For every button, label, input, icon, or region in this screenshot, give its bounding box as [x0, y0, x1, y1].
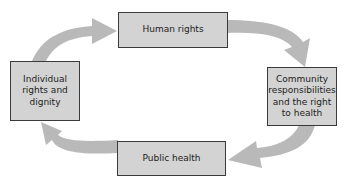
- node-individual-rights: Individual rights and dignity: [10, 61, 80, 121]
- arrow-individual-to-human-rights: [32, 18, 117, 61]
- node-label-line: Individual: [22, 74, 68, 86]
- arrow-public-health-to-individual: [41, 122, 118, 154]
- arrow-community-to-public-health: [228, 125, 315, 168]
- node-label-line: responsibilities: [268, 85, 335, 97]
- node-label-line: and the right: [268, 97, 335, 109]
- node-human-rights: Human rights: [118, 12, 228, 48]
- node-label-line: Community: [268, 74, 335, 86]
- node-label: Human rights: [142, 24, 203, 36]
- node-label-line: rights and: [22, 85, 68, 97]
- node-label: Public health: [143, 153, 201, 165]
- node-label-line: to health: [268, 108, 335, 120]
- node-label-line: dignity: [22, 97, 68, 109]
- node-community-responsibilities: Community responsibilities and the right…: [267, 67, 337, 126]
- arrow-human-rights-to-community: [227, 20, 310, 67]
- node-public-health: Public health: [117, 141, 226, 176]
